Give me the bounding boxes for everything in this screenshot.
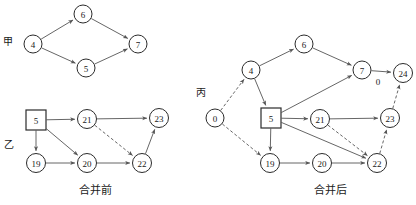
node-19: 19 [27, 154, 46, 173]
node-label: 19 [266, 159, 276, 169]
panel-caption-left: 合并前 [79, 183, 112, 197]
node-label: 6 [81, 10, 86, 20]
node-label: 22 [138, 159, 147, 169]
node-label: 7 [136, 40, 141, 50]
edge-R5-R19 [270, 129, 271, 151]
node-label: 23 [155, 114, 165, 124]
node-label: 5 [34, 116, 39, 126]
node-23: 23 [381, 109, 400, 128]
node-21: 21 [78, 110, 97, 129]
node-5: 5 [77, 59, 95, 77]
edge-L5s-L21 [47, 119, 75, 120]
edge-L4-L6 [41, 20, 73, 39]
node-4: 4 [24, 35, 42, 53]
node-6: 6 [295, 35, 313, 53]
node-5: 5 [261, 108, 281, 128]
node-label: 23 [386, 114, 396, 124]
edge-L21-L22 [95, 125, 133, 155]
edges-layer [36, 19, 400, 163]
node-label: 5 [84, 64, 89, 74]
node-label: 22 [373, 159, 382, 169]
node-label: 4 [249, 66, 254, 76]
node-23: 23 [150, 109, 169, 128]
node-label: 21 [83, 115, 92, 125]
diagram-canvas: 46575212319202204672452123192022 甲乙合并前0丙… [0, 0, 416, 205]
group-label-yi: 乙 [4, 139, 14, 150]
node-label: 19 [32, 159, 42, 169]
edge-R4-R6 [260, 49, 294, 66]
edge-R4-R5 [255, 79, 266, 106]
edge-weight-label: 0 [376, 77, 381, 87]
edge-R0-R4 [221, 79, 244, 110]
node-0: 0 [206, 109, 224, 127]
node-label: 24 [399, 69, 409, 79]
edge-L6-L7 [91, 19, 127, 39]
node-label: 6 [302, 40, 307, 50]
group-label-jia: 甲 [3, 36, 13, 47]
edge-R22-R23 [380, 130, 387, 154]
node-21: 21 [311, 110, 330, 129]
node-20: 20 [78, 154, 97, 173]
node-6: 6 [74, 5, 92, 23]
edge-L22-L23 [146, 129, 155, 153]
nodes-layer: 46575212319202204672452123192022 [24, 5, 413, 173]
node-label: 7 [360, 66, 365, 76]
panel-caption-right: 合并后 [314, 183, 347, 197]
node-label: 20 [318, 159, 328, 169]
edge-L21-L23 [97, 118, 147, 119]
node-24: 24 [394, 64, 413, 83]
edge-L4-L5t [42, 48, 76, 63]
edge-L5t-L7 [95, 49, 128, 64]
node-5: 5 [26, 110, 46, 130]
node-20: 20 [313, 154, 332, 173]
edge-R6-R7 [313, 48, 352, 65]
edge-R21-R23 [330, 118, 378, 119]
node-7: 7 [129, 35, 147, 53]
edge-R7-R24 [371, 71, 390, 72]
node-19: 19 [261, 154, 280, 173]
node-22: 22 [133, 154, 152, 173]
edge-R5-R7 [282, 75, 352, 112]
graph-merge-figure: 46575212319202204672452123192022 甲乙合并前0丙… [0, 0, 416, 205]
node-7: 7 [353, 61, 371, 79]
edge-R23-R24 [393, 85, 400, 109]
group-label-bing: 丙 [196, 87, 206, 98]
node-label: 4 [31, 40, 36, 50]
edge-R5-R21 [282, 118, 308, 119]
node-22: 22 [368, 154, 387, 173]
edge-L5s-L20 [47, 129, 78, 155]
node-label: 5 [269, 114, 274, 124]
node-4: 4 [242, 61, 260, 79]
node-label: 20 [83, 159, 93, 169]
node-label: 21 [316, 115, 325, 125]
node-label: 0 [213, 114, 218, 124]
edge-R0-R19 [222, 124, 260, 155]
